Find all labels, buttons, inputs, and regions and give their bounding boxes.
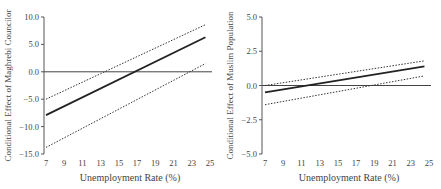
y-tick-label: −15.0 [19,149,39,159]
y-tick-label: 10.0 [24,12,39,22]
x-tick-label: 19 [370,158,379,168]
x-axis-title: Unemployment Rate (%) [80,172,181,184]
x-tick-label: 15 [334,158,343,168]
x-tick-label: 13 [96,158,105,168]
x-tick-label: 17 [133,158,142,168]
x-tick-label: 13 [315,158,324,168]
y-tick-label: 2.5 [246,46,257,56]
y-axis-title: Conditional Effect of Muslim Population [225,11,235,159]
x-tick-label: 9 [62,158,66,168]
y-axis-title: Conditional Effect of Maghrebi Councilor [3,10,13,162]
y-tick-label: 5.0 [246,12,257,22]
x-tick-label: 7 [44,158,48,168]
chart-maghrebi-councilor: 10.05.00.0−5.0−10.0−15.07911131517192123… [0,0,220,189]
y-tick-label: −5.0 [24,94,39,104]
x-tick-label: 15 [115,158,124,168]
plot-area: 5.02.50.0−2.5−5.0791113151719212325Unemp… [220,0,441,189]
y-tick-label: 0.0 [28,67,39,77]
x-tick-label: 19 [151,158,160,168]
chart-muslim-population: 5.02.50.0−2.5−5.0791113151719212325Unemp… [220,0,441,189]
x-tick-label: 23 [407,158,416,168]
x-tick-label: 17 [352,158,361,168]
x-tick-label: 25 [206,158,215,168]
x-tick-label: 21 [169,158,178,168]
x-tick-label: 23 [188,158,197,168]
y-tick-label: −10.0 [19,122,39,132]
x-tick-label: 9 [281,158,285,168]
y-tick-label: −2.5 [242,115,257,125]
x-tick-label: 7 [263,158,267,168]
confidence-bound-line [265,61,424,86]
y-tick-label: −5.0 [242,149,257,159]
plot-area: 10.05.00.0−5.0−10.0−15.07911131517192123… [0,0,220,189]
effect-line [265,66,424,92]
x-axis-title: Unemployment Rate (%) [299,172,400,184]
x-tick-label: 11 [78,158,86,168]
x-tick-label: 11 [297,158,305,168]
x-tick-label: 25 [425,158,434,168]
y-tick-label: 5.0 [28,39,39,49]
confidence-bound-line [46,25,205,100]
y-tick-label: 0.0 [246,81,257,91]
x-tick-label: 21 [388,158,397,168]
